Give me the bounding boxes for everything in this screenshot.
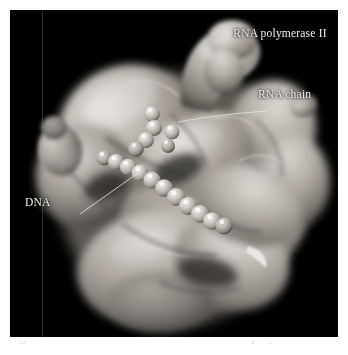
molecular-structure-image bbox=[10, 10, 338, 337]
figure-root: RNA polymerase II RNA chain DNA Figure 2… bbox=[0, 0, 348, 355]
caption-strip: Figure 21-17 Model of the structure of R… bbox=[0, 341, 348, 355]
figure-caption: Figure 21-17 Model of the structure of R… bbox=[8, 341, 348, 344]
molecular-surface-svg bbox=[10, 10, 338, 337]
panel-seam bbox=[42, 10, 43, 337]
